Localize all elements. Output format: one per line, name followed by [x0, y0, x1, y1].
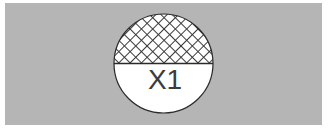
circle-diagram: X1 — [0, 0, 331, 137]
image-canvas: X1 — [0, 0, 331, 137]
circle-label-x1: X1 — [148, 64, 182, 95]
